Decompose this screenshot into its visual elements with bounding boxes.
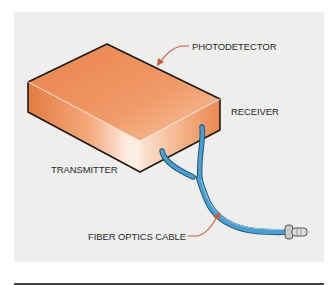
cable-leader-arrow	[188, 212, 220, 236]
optical-box	[28, 44, 220, 172]
photodetector-leader-arrow	[157, 46, 189, 66]
cable-connector	[285, 225, 307, 239]
receiver-label: RECEIVER	[231, 106, 279, 117]
transmitter-label: TRANSMITTER	[51, 164, 118, 175]
fiber-optic-link-diagram: PHOTODETECTOR RECEIVER TRANSMITTER FIBER…	[0, 0, 335, 285]
photodetector-label: PHOTODETECTOR	[192, 41, 277, 52]
fiber-optics-cable-label: FIBER OPTICS CABLE	[88, 231, 186, 242]
